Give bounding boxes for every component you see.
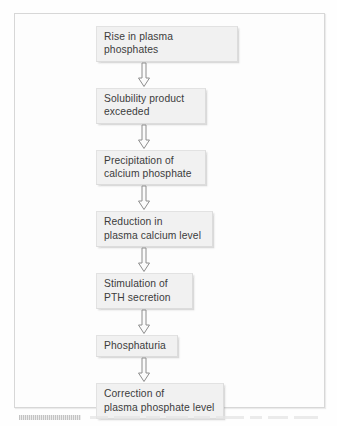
caption-ghost-text — [194, 416, 210, 419]
caption-ghost-text — [166, 416, 188, 419]
flow-step-stimulation-of-pth-secretion: Stimulation of PTH secretion — [96, 273, 311, 309]
figure-caption-strip — [14, 414, 325, 422]
flow-box-solubility-product-exceeded: Solubility product exceeded — [96, 88, 206, 124]
arrow-down-icon-4 — [137, 247, 151, 273]
flow-step-rise-in-plasma-phosphates: Rise in plasma phosphates — [96, 26, 311, 62]
caption-ghost-text — [216, 416, 244, 419]
caption-label-block — [19, 415, 81, 420]
flow-step-phosphaturia: Phosphaturia — [96, 335, 311, 357]
arrow-down-icon-5 — [137, 309, 151, 335]
flow-box-phosphaturia: Phosphaturia — [96, 335, 178, 357]
caption-ghost-text — [294, 416, 318, 419]
caption-ghost-text — [250, 416, 262, 419]
flowchart: Rise in plasma phosphates Solubility pro… — [96, 26, 311, 419]
flow-box-reduction-in-plasma-calcium-level: Reduction in plasma calcium level — [96, 211, 213, 247]
caption-ghost-text — [146, 416, 160, 419]
flow-step-precipitation-of-calcium-phosphate: Precipitation of calcium phosphate — [96, 150, 311, 186]
arrow-down-icon-2 — [137, 124, 151, 150]
flow-box-precipitation-of-calcium-phosphate: Precipitation of calcium phosphate — [96, 150, 206, 186]
flow-step-solubility-product-exceeded: Solubility product exceeded — [96, 88, 311, 124]
arrow-down-icon-3 — [137, 185, 151, 211]
flow-box-stimulation-of-pth-secretion: Stimulation of PTH secretion — [96, 273, 193, 309]
figure-frame: Rise in plasma phosphates Solubility pro… — [14, 13, 325, 408]
figure-root: Rise in plasma phosphates Solubility pro… — [0, 0, 337, 426]
caption-ghost-text — [114, 416, 140, 419]
flow-step-reduction-in-plasma-calcium-level: Reduction in plasma calcium level — [96, 211, 311, 247]
caption-ghost-text — [90, 416, 108, 419]
flow-box-rise-in-plasma-phosphates: Rise in plasma phosphates — [96, 26, 238, 62]
caption-ghost-text — [268, 416, 288, 419]
arrow-down-icon-1 — [137, 62, 151, 88]
arrow-down-icon-6 — [137, 357, 151, 383]
